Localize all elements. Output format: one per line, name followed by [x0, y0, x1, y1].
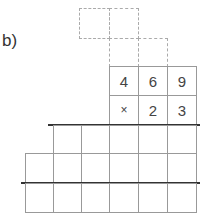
- result-cell[interactable]: [138, 183, 168, 213]
- carry-box[interactable]: [109, 8, 139, 39]
- multiplier-digit: 2: [138, 95, 168, 125]
- multiplicand-digit: 6: [138, 66, 168, 96]
- answer-cell[interactable]: [53, 125, 82, 154]
- answer-cell[interactable]: [81, 125, 110, 154]
- answer-cell[interactable]: [25, 153, 54, 183]
- multiply-sign: ×: [109, 95, 139, 125]
- answer-cell[interactable]: [167, 153, 197, 183]
- answer-cell[interactable]: [138, 125, 168, 154]
- answer-cell[interactable]: [109, 125, 139, 154]
- answer-cell[interactable]: [81, 153, 110, 183]
- answer-cell[interactable]: [53, 153, 82, 183]
- carry-box[interactable]: [138, 38, 168, 67]
- multiplier-digit: 3: [167, 95, 197, 125]
- result-cell[interactable]: [53, 183, 82, 213]
- carry-box[interactable]: [79, 8, 110, 39]
- result-cell[interactable]: [81, 183, 110, 213]
- answer-cell[interactable]: [109, 153, 139, 183]
- result-cell[interactable]: [109, 183, 139, 213]
- problem-label: b): [2, 31, 17, 51]
- answer-cell[interactable]: [167, 125, 197, 154]
- multiplicand-digit: 9: [167, 66, 197, 96]
- result-cell[interactable]: [25, 183, 54, 213]
- carry-box[interactable]: [109, 38, 139, 67]
- answer-cell[interactable]: [138, 153, 168, 183]
- result-cell[interactable]: [167, 183, 197, 213]
- multiplicand-digit: 4: [109, 66, 139, 96]
